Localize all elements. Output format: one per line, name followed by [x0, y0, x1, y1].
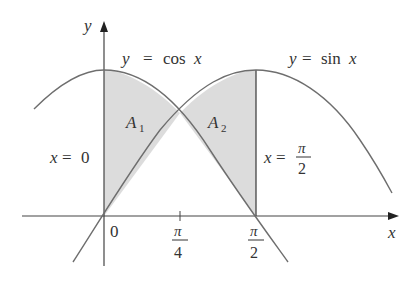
x-axis-label: x: [387, 223, 396, 242]
cos-curve-label: y = cos x: [120, 49, 202, 68]
shaded-region-a1: [104, 70, 180, 216]
svg-text:π: π: [298, 140, 306, 156]
svg-text:A: A: [207, 113, 219, 132]
sin-curve-label: y = sin x: [287, 49, 357, 68]
area-between-curves-figure: y x 0 π 4 π 2 y = cos x y = sin x A 1 A …: [0, 0, 408, 287]
tick-label-pi-2-den: 2: [250, 244, 258, 261]
svg-text:=: =: [302, 49, 312, 68]
tick-label-pi-4-num: π: [174, 223, 182, 239]
svg-text:y: y: [120, 49, 130, 68]
svg-text:y: y: [287, 49, 297, 68]
boundary-label-right: x = π 2: [263, 140, 311, 177]
svg-text:x: x: [49, 148, 58, 167]
svg-text:cos: cos: [163, 49, 186, 68]
svg-text:sin: sin: [321, 49, 341, 68]
svg-text:=: =: [143, 49, 153, 68]
x-axis-arrow-icon: [388, 212, 399, 220]
tick-label-pi-2-num: π: [250, 223, 258, 239]
tick-label-pi-4-den: 4: [174, 244, 182, 261]
svg-text:1: 1: [139, 122, 145, 134]
svg-text:x: x: [263, 148, 272, 167]
shaded-region-a2: [180, 70, 256, 216]
boundary-label-left: x = 0: [49, 148, 90, 167]
origin-label: 0: [110, 222, 119, 241]
svg-text:2: 2: [298, 160, 306, 177]
y-axis-arrow-icon: [100, 21, 108, 32]
svg-text:=: =: [62, 148, 72, 167]
svg-text:x: x: [193, 49, 202, 68]
svg-text:2: 2: [221, 122, 227, 134]
svg-text:x: x: [348, 49, 357, 68]
svg-text:=: =: [276, 148, 286, 167]
svg-text:A: A: [125, 113, 137, 132]
y-axis-label: y: [82, 16, 92, 35]
svg-text:0: 0: [81, 148, 90, 167]
